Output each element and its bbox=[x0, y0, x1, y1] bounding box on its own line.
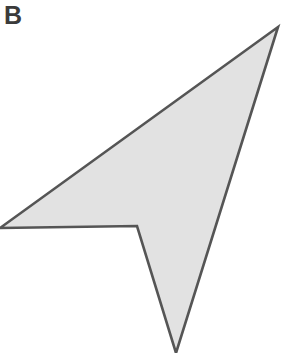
panel-label: B bbox=[4, 2, 22, 30]
figure-canvas: B bbox=[0, 0, 288, 353]
arrow-polygon-shape bbox=[0, 27, 278, 353]
shape-svg-container bbox=[0, 0, 288, 353]
